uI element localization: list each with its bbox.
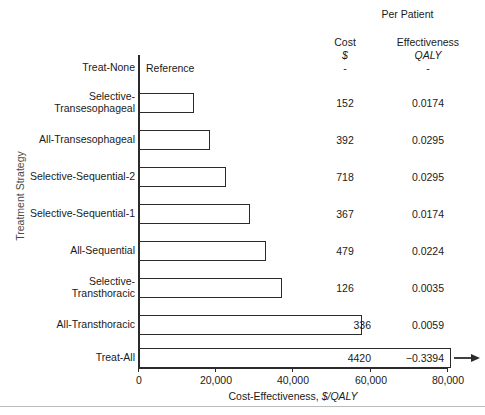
effectiveness-value-all-transesophageal: 0.0295 bbox=[378, 134, 478, 146]
x-tick-label-0: 0 bbox=[136, 374, 142, 386]
x-tick-label-3: 60,000 bbox=[355, 374, 387, 386]
x-axis-label-text: Cost-Effectiveness, bbox=[229, 390, 322, 402]
x-axis-label: Cost-Effectiveness, $/QALY bbox=[138, 390, 448, 402]
bar-selective-transthoracic bbox=[139, 278, 282, 298]
category-label-treat-all: Treat-All bbox=[0, 352, 135, 364]
cost-value-all-transesophageal: 392 bbox=[315, 134, 375, 146]
reference-text: Reference bbox=[146, 62, 194, 74]
bar-selective-sequential-1 bbox=[139, 204, 250, 224]
cost-effectiveness-figure: Per Patient Cost $ Effectiveness QALY 0 … bbox=[0, 0, 485, 415]
effectiveness-value-treat-none: - bbox=[378, 62, 478, 74]
category-label-selective-transesophageal: Selective- Transesophageal bbox=[0, 91, 135, 114]
cost-value-selective-transthoracic: 126 bbox=[315, 282, 375, 294]
cost-value-selective-sequential-2: 718 bbox=[315, 171, 375, 183]
bar-selective-sequential-2 bbox=[139, 167, 226, 187]
cost-value-all-transthoracic: 336 bbox=[315, 319, 371, 331]
cost-value-selective-sequential-1: 367 bbox=[315, 208, 375, 220]
cost-value-selective-transesophageal: 152 bbox=[315, 97, 375, 109]
x-tick-label-4: 80,000 bbox=[432, 374, 464, 386]
effectiveness-value-all-sequential: 0.0224 bbox=[378, 245, 478, 257]
effectiveness-value-selective-sequential-2: 0.0295 bbox=[378, 171, 478, 183]
x-axis-label-unit: $/QALY bbox=[322, 390, 358, 402]
category-label-all-sequential: All-Sequential bbox=[0, 245, 135, 257]
category-label-selective-transthoracic: Selective- Transthoracic bbox=[0, 276, 135, 299]
cost-value-all-sequential: 479 bbox=[315, 245, 375, 257]
effectiveness-value-all-transthoracic: 0.0059 bbox=[378, 319, 478, 331]
category-label-all-transesophageal: All-Transesophageal bbox=[0, 134, 135, 146]
bar-all-sequential bbox=[139, 241, 266, 261]
category-label-treat-none: Treat-None bbox=[0, 62, 135, 74]
effectiveness-value-treat-all: −0.3394 bbox=[360, 352, 444, 364]
effectiveness-value-selective-transthoracic: 0.0035 bbox=[378, 282, 478, 294]
y-axis-label: Treatment Strategy bbox=[14, 131, 26, 261]
plot-area: 0 20,000 40,000 60,000 80,000 Cost-Effec… bbox=[0, 0, 485, 415]
bar-selective-transesophageal bbox=[139, 93, 194, 113]
bottom-divider bbox=[0, 406, 485, 407]
effectiveness-value-selective-transesophageal: 0.0174 bbox=[378, 97, 478, 109]
cost-value-treat-none: - bbox=[315, 62, 375, 74]
x-tick-label-2: 40,000 bbox=[277, 374, 309, 386]
arrow-right-icon bbox=[454, 352, 480, 364]
bar-all-transesophageal bbox=[139, 130, 210, 150]
effectiveness-value-selective-sequential-1: 0.0174 bbox=[378, 208, 478, 220]
category-label-selective-sequential-1: Selective-Sequential-1 bbox=[0, 208, 135, 220]
x-tick-label-1: 20,000 bbox=[200, 374, 232, 386]
category-label-all-transthoracic: All-Transthoracic bbox=[0, 319, 135, 331]
category-label-selective-sequential-2: Selective-Sequential-2 bbox=[0, 171, 135, 183]
